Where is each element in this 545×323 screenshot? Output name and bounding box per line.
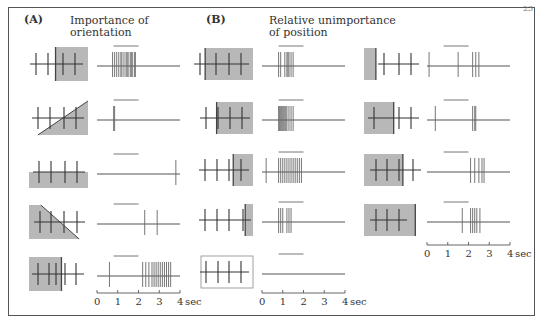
a-time-axis-tick-label: 3 — [156, 296, 162, 308]
c-time-axis-tick-label: 1 — [445, 248, 451, 260]
a-time-axis-tick-label: 2 — [136, 296, 142, 308]
b-time-axis-tick-label: 2 — [301, 296, 307, 308]
receptive-field-figure — [0, 0, 545, 323]
c-time-axis-tick-label: 0 — [424, 248, 430, 260]
b-time-axis-unit-label: sec — [350, 296, 367, 308]
b-time-axis-tick-label: 0 — [259, 296, 265, 308]
b-time-axis-tick-label: 4 — [342, 296, 348, 308]
a-time-axis-tick-label: 1 — [115, 296, 121, 308]
c-time-axis-tick-label: 4 — [507, 248, 513, 260]
c-stim-0-shade — [364, 48, 376, 80]
a-stim-2-shade — [29, 172, 88, 188]
c-time-axis-tick-label: 2 — [466, 248, 472, 260]
b-time-axis-tick-label: 3 — [321, 296, 327, 308]
b-time-axis-tick-label: 1 — [280, 296, 286, 308]
a-time-axis-tick-label: 0 — [94, 296, 100, 308]
a-time-axis-tick-label: 4 — [177, 296, 183, 308]
c-time-axis-tick-label: 3 — [486, 248, 492, 260]
c-time-axis-unit-label: sec — [515, 248, 532, 260]
a-time-axis-unit-label: sec — [185, 296, 202, 308]
